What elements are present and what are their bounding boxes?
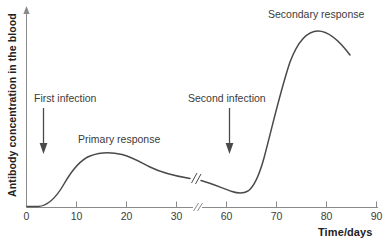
second-infection-arrow-icon [226,143,234,154]
x-axis-title: Time/days [318,226,373,238]
y-axis-arrow-icon [23,6,29,14]
annotation-primary-response: Primary response [78,133,160,145]
x-tick-label-20: 20 [114,210,139,222]
antibody-response-chart: Antibody concentration in the blood Time… [0,0,387,246]
x-tick-label-60: 60 [214,210,239,222]
x-tick-label-10: 10 [64,210,89,222]
x-tick-label-30: 30 [164,210,189,222]
curve-break-mark-2 [196,174,202,184]
annotation-second-infection: Second infection [188,92,266,104]
x-tick-label-70: 70 [264,210,289,222]
annotation-first-infection: First infection [34,92,96,104]
curve-break-mark-1 [192,173,198,183]
y-axis-title: Antibody concentration in the blood [6,0,18,210]
curve-primary-response [27,153,190,207]
curve-secondary-response [201,31,350,193]
first-infection-arrow-icon [40,143,48,154]
annotation-secondary-response: Secondary response [268,8,364,20]
x-tick-label-0: 0 [14,210,39,222]
x-tick-label-90: 90 [364,210,387,222]
x-tick-label-80: 80 [314,210,339,222]
